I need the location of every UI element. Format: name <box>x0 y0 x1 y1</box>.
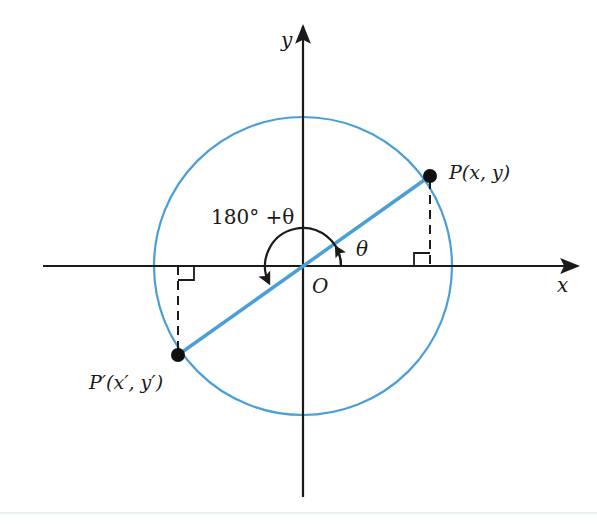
right-angle-marker-p <box>414 253 430 266</box>
theta-label: θ <box>356 237 368 261</box>
point-p-prime-label: P′(x′, y′) <box>88 371 163 393</box>
supplementary-angle-label: 180° +θ <box>211 205 294 229</box>
x-axis-label: x <box>557 273 568 297</box>
point-p-label: P(x, y) <box>448 161 510 183</box>
point-p-prime <box>171 348 185 362</box>
bottom-rule <box>0 512 597 514</box>
point-p <box>423 169 437 183</box>
origin-label: O <box>312 274 328 298</box>
right-angle-marker-p-prime <box>178 266 194 280</box>
unit-circle-diagram: y x O P(x, y) P′(x′, y′) θ 180° +θ <box>0 0 597 530</box>
y-axis-label: y <box>280 28 293 52</box>
